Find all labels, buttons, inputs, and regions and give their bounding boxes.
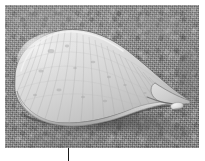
figure-root [0, 0, 205, 161]
shell-photograph [5, 5, 199, 148]
leader-line [68, 148, 69, 161]
shell-illustration [5, 5, 199, 148]
pebble-shadow [173, 108, 186, 112]
